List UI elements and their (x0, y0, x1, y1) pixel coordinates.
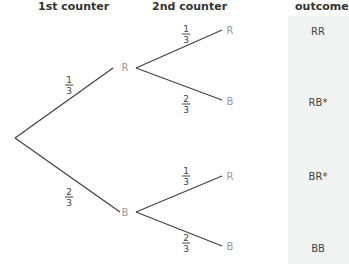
outcome-rr: RR (311, 26, 325, 37)
prob-num: 1 (182, 166, 190, 177)
prob-l2-bb: 2 3 (182, 233, 190, 254)
prob-num: 2 (182, 233, 190, 244)
node-l2-rr: R (227, 25, 234, 36)
prob-den: 3 (182, 105, 190, 115)
prob-num: 2 (182, 94, 190, 105)
tree-branches (0, 0, 349, 264)
node-l2-rb: B (227, 96, 234, 107)
prob-l2-rr: 1 3 (182, 24, 190, 45)
prob-l2-br: 1 3 (182, 166, 190, 187)
prob-num: 1 (65, 75, 73, 86)
prob-den: 3 (182, 177, 190, 187)
prob-l2-rb: 2 3 (182, 94, 190, 115)
outcome-bb: BB (311, 243, 325, 254)
node-l2-br: R (227, 171, 234, 182)
prob-l1-b: 2 3 (65, 187, 73, 208)
prob-den: 3 (182, 35, 190, 45)
prob-den: 3 (65, 86, 73, 96)
prob-den: 3 (182, 244, 190, 254)
prob-l1-r: 1 3 (65, 75, 73, 96)
outcome-rb: RB* (309, 97, 328, 108)
prob-den: 3 (65, 198, 73, 208)
outcome-br: BR* (309, 171, 328, 182)
node-l1-r: R (122, 62, 129, 73)
prob-num: 2 (65, 187, 73, 198)
prob-num: 1 (182, 24, 190, 35)
node-l2-bb: B (227, 241, 234, 252)
node-l1-b: B (122, 207, 129, 218)
